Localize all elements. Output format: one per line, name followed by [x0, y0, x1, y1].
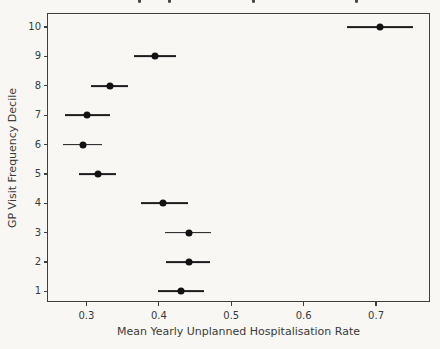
data-point — [377, 24, 384, 31]
y-tick-mark — [44, 85, 48, 86]
x-tick-mark — [375, 302, 376, 306]
y-tick-mark — [44, 144, 48, 145]
clipped-title-fragment — [138, 0, 141, 3]
y-tick-mark — [44, 232, 48, 233]
x-axis-label: Mean Yearly Unplanned Hospitalisation Ra… — [117, 326, 360, 337]
y-tick-label: 9 — [21, 51, 41, 61]
y-axis-label: GP Visit Frequency Decile — [7, 87, 18, 227]
y-tick-mark — [44, 115, 48, 116]
data-point — [178, 288, 185, 295]
clipped-title-fragment — [355, 0, 358, 3]
x-tick-mark — [158, 302, 159, 306]
data-point — [79, 141, 86, 148]
y-tick-label: 1 — [21, 286, 41, 296]
y-tick-label: 2 — [21, 257, 41, 267]
plot-area — [47, 13, 430, 302]
clipped-title-fragment — [168, 0, 171, 3]
x-tick-mark — [231, 302, 232, 306]
x-tick-label: 0.5 — [223, 311, 239, 321]
y-tick-label: 6 — [21, 140, 41, 150]
y-tick-label: 5 — [21, 169, 41, 179]
y-tick-mark — [44, 26, 48, 27]
y-tick-label: 7 — [21, 110, 41, 120]
x-tick-label: 0.7 — [368, 311, 384, 321]
x-tick-mark — [86, 302, 87, 306]
y-tick-mark — [44, 56, 48, 57]
y-tick-label: 8 — [21, 81, 41, 91]
data-point — [185, 259, 192, 266]
x-tick-label: 0.4 — [151, 311, 167, 321]
y-tick-mark — [44, 291, 48, 292]
data-point — [84, 112, 91, 119]
data-point — [95, 170, 102, 177]
y-tick-label: 10 — [21, 22, 41, 32]
y-tick-mark — [44, 173, 48, 174]
data-point — [160, 200, 167, 207]
figure: 0.30.40.50.60.712345678910 Mean Yearly U… — [0, 0, 440, 349]
y-tick-label: 4 — [21, 198, 41, 208]
data-point — [185, 229, 192, 236]
y-tick-label: 3 — [21, 228, 41, 238]
x-tick-mark — [303, 302, 304, 306]
data-point — [152, 53, 159, 60]
y-tick-mark — [44, 203, 48, 204]
y-tick-mark — [44, 261, 48, 262]
clipped-title-fragment — [252, 0, 255, 3]
x-tick-label: 0.6 — [296, 311, 312, 321]
x-tick-label: 0.3 — [79, 311, 95, 321]
data-point — [107, 82, 114, 89]
